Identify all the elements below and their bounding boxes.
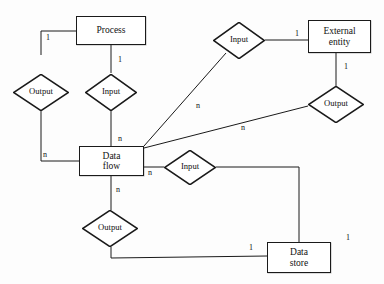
cardinality-label: n [43, 151, 47, 159]
cardinality-label: 1 [118, 56, 122, 64]
cardinality-label: n [116, 186, 120, 194]
cardinality-label: n [196, 102, 200, 110]
cardinality-label: 1 [346, 234, 350, 242]
cardinality-label: 1 [295, 30, 299, 38]
cardinality-label: 1 [249, 244, 253, 252]
entity-process[interactable]: Process [76, 16, 146, 45]
cardinality-label: n [241, 124, 245, 132]
relationship-label: Output [97, 223, 123, 232]
entity-data-store-label-line1: Data [290, 247, 308, 257]
relationship-label: Input [101, 87, 121, 96]
relationship-input-process-dataflow[interactable]: Input [85, 74, 137, 111]
connector-input-right-to-dataflow [144, 53, 226, 146]
cardinality-label: 1 [46, 34, 50, 42]
entity-external-entity-label-line1: External [323, 26, 355, 36]
cardinality-label: n [118, 135, 122, 143]
connector-input-mid-to-datastore [216, 167, 299, 242]
cardinality-label: 1 [344, 63, 348, 71]
relationship-label: Input [180, 162, 200, 171]
entity-external-entity[interactable]: External entity [308, 20, 371, 53]
relationship-output-process-dataflow[interactable]: Output [13, 74, 69, 111]
connector-output-right-to-dataflow [144, 106, 308, 148]
cardinality-label: n [148, 169, 152, 177]
entity-data-flow-label-line2: flow [103, 161, 120, 171]
entity-data-flow[interactable]: Data flow [79, 146, 144, 176]
relationship-label: Input [229, 35, 249, 44]
entity-data-flow-label-line1: Data [103, 151, 121, 161]
er-diagram-canvas: Process External entity Data flow Data s… [0, 0, 384, 284]
entity-external-entity-label-line2: entity [329, 37, 351, 47]
connector-output-bottom-to-datastore [111, 247, 267, 258]
relationship-output-dataflow-datastore[interactable]: Output [82, 210, 138, 247]
relationship-label: Output [323, 99, 349, 108]
entity-data-store[interactable]: Data store [267, 242, 331, 273]
relationship-input-extentity-dataflow[interactable]: Input [213, 22, 265, 59]
relationship-label: Output [28, 87, 54, 96]
entity-data-store-label-line2: store [290, 258, 308, 268]
relationship-output-extentity-dataflow[interactable]: Output [308, 86, 364, 123]
relationship-input-datastore-dataflow[interactable]: Input [164, 150, 216, 185]
entity-process-label: Process [96, 25, 125, 35]
